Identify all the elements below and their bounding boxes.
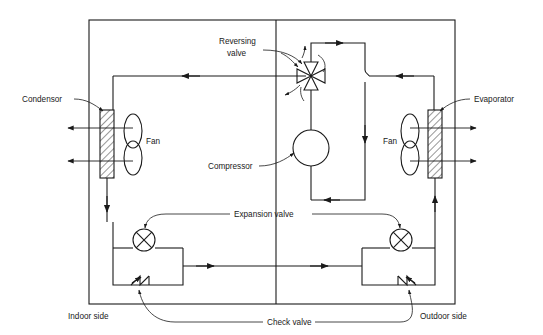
reversing-valve-label-line1: Reversing [219,37,256,46]
reversing-valve-label-line2: valve [227,49,247,58]
check-valve-outdoor [398,276,416,285]
suction-line-top [113,76,306,110]
cabinet-outline [89,20,455,304]
schematic-canvas: Condensor Evaporator Fan Fan Reversing v… [0,0,543,335]
evaporator-label: Evaporator [474,95,514,104]
heat-pump-diagram: Condensor Evaporator Fan Fan Reversing v… [0,0,543,335]
fan-outdoor [401,114,419,175]
fan-indoor-label: Fan [146,137,161,146]
check-valve-leader-right [315,290,412,322]
reversing-valve-leader [263,50,302,64]
expansion-valve-indoor [133,229,155,251]
evaporator [428,110,442,222]
compressor [293,112,329,200]
expansion-valve-outdoor [390,229,412,251]
condensor-label: Condensor [22,95,62,104]
outdoor-valve-bypass-loop [276,222,435,285]
expansion-valve-leader-left [145,214,230,228]
check-valve-leader-left [139,290,263,322]
reversing-valve [297,56,325,112]
fan-indoor [124,114,142,175]
check-valve-label: Check valve [267,318,312,327]
discharge-loop [311,82,365,200]
indoor-side-label: Indoor side [68,312,109,321]
condensor [100,110,114,222]
suction-line-right [369,76,434,110]
expansion-valve-label: Expansion valve [234,210,294,219]
expansion-valve-leader-right [312,214,400,228]
check-valve-indoor [131,276,149,285]
outdoor-airflow [410,128,476,161]
outdoor-side-label: Outdoor side [420,312,467,321]
fan-outdoor-label: Fan [383,137,398,146]
compressor-label: Compressor [208,162,253,171]
